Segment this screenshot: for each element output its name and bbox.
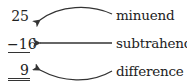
difference-label: difference [116,64,184,78]
minuend-arrow-icon [40,7,112,20]
minuend-label: minuend [116,8,174,22]
difference-arrow-icon [40,70,112,80]
subtrahend-label: subtrahend [116,36,187,50]
